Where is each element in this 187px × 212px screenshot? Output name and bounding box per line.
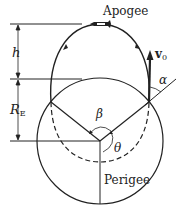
h-label: h — [12, 45, 20, 60]
theta-label: θ — [114, 141, 122, 155]
velocity-vector — [149, 58, 150, 102]
alpha-arc — [150, 87, 161, 92]
beta-arc — [90, 127, 111, 133]
orbit-diagram: Apogee Perigee h RE v0 α β θ — [0, 0, 187, 212]
v0-label: v0 — [154, 47, 167, 62]
perigee-label: Perigee — [104, 173, 150, 187]
alpha-label: α — [159, 73, 167, 87]
beta-label: β — [95, 107, 103, 121]
velocity-arrowhead — [147, 50, 154, 60]
apogee-label: Apogee — [102, 4, 148, 18]
re-label: RE — [9, 102, 26, 118]
rocket-icon — [90, 20, 111, 28]
trajectory-path — [51, 24, 150, 102]
